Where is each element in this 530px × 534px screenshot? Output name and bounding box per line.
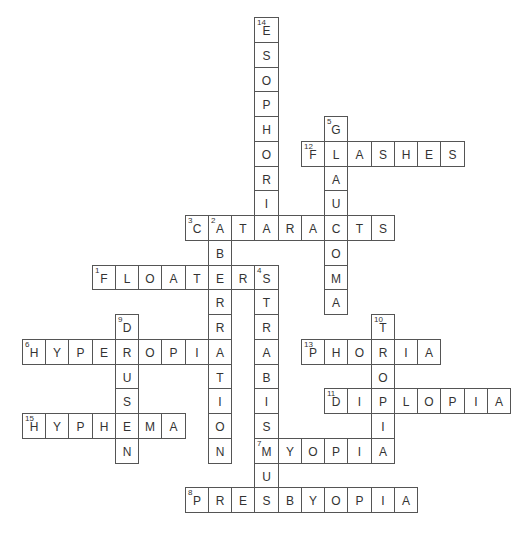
crossword-cell[interactable]: 6H — [22, 339, 46, 365]
crossword-cell[interactable]: C — [324, 215, 348, 241]
crossword-cell[interactable]: P — [161, 339, 186, 365]
crossword-cell[interactable]: 12F — [301, 141, 325, 167]
crossword-cell[interactable]: A — [371, 438, 395, 464]
crossword-cell[interactable]: O — [417, 388, 441, 414]
crossword-cell[interactable]: R — [278, 215, 302, 241]
crossword-cell[interactable]: A — [254, 215, 279, 241]
crossword-cell[interactable]: 5G — [324, 116, 348, 142]
crossword-cell[interactable]: R — [254, 314, 279, 340]
crossword-cell[interactable]: E — [92, 339, 116, 365]
crossword-cell[interactable]: O — [208, 413, 232, 439]
crossword-cell[interactable]: R — [254, 166, 279, 191]
crossword-cell[interactable]: T — [254, 289, 279, 315]
crossword-cell[interactable]: P — [347, 487, 372, 513]
crossword-cell[interactable]: 1F — [92, 265, 116, 290]
crossword-cell[interactable]: I — [394, 339, 418, 365]
crossword-cell[interactable]: H — [394, 141, 418, 167]
crossword-cell[interactable]: 7M — [254, 438, 279, 464]
crossword-cell[interactable]: A — [301, 215, 325, 241]
crossword-cell[interactable]: A — [324, 289, 348, 315]
crossword-cell[interactable]: 11D — [324, 388, 348, 414]
crossword-cell[interactable]: E — [115, 413, 139, 439]
crossword-cell[interactable]: O — [324, 240, 348, 266]
crossword-cell[interactable]: I — [254, 388, 279, 414]
crossword-cell[interactable]: E — [231, 487, 255, 513]
crossword-cell[interactable]: O — [301, 438, 325, 464]
crossword-cell[interactable]: S — [371, 215, 395, 241]
crossword-cell[interactable]: P — [371, 388, 395, 414]
crossword-cell[interactable]: A — [161, 265, 186, 290]
crossword-cell[interactable]: A — [394, 487, 418, 513]
crossword-cell[interactable]: P — [254, 91, 279, 117]
crossword-cell[interactable]: Y — [301, 487, 325, 513]
crossword-cell[interactable]: O — [138, 265, 162, 290]
crossword-cell[interactable]: R — [208, 314, 232, 340]
crossword-cell[interactable]: 13P — [301, 339, 325, 365]
crossword-cell[interactable]: 2A — [208, 215, 232, 241]
crossword-cell[interactable]: N — [208, 438, 232, 464]
crossword-cell[interactable]: B — [278, 487, 302, 513]
crossword-cell[interactable]: O — [254, 67, 279, 92]
crossword-cell[interactable]: A — [161, 413, 186, 439]
crossword-cell[interactable]: U — [324, 190, 348, 216]
crossword-cell[interactable]: A — [487, 388, 511, 414]
crossword-cell[interactable]: Y — [278, 438, 302, 464]
crossword-cell[interactable]: T — [185, 265, 209, 290]
crossword-cell[interactable]: R — [208, 487, 232, 513]
crossword-cell[interactable]: R — [115, 339, 139, 365]
crossword-cell[interactable]: R — [231, 265, 255, 290]
crossword-cell[interactable]: M — [138, 413, 162, 439]
crossword-cell[interactable]: T — [347, 215, 372, 241]
crossword-cell[interactable]: S — [115, 388, 139, 414]
crossword-cell[interactable]: I — [208, 388, 232, 414]
crossword-cell[interactable]: P — [324, 438, 348, 464]
crossword-cell[interactable]: N — [115, 438, 139, 464]
crossword-cell[interactable]: 14E — [254, 17, 279, 43]
crossword-cell[interactable]: A — [208, 339, 232, 365]
crossword-cell[interactable]: S — [371, 141, 395, 167]
crossword-cell[interactable]: U — [254, 463, 279, 488]
crossword-cell[interactable]: 15H — [22, 413, 46, 439]
crossword-cell[interactable]: I — [347, 388, 372, 414]
crossword-cell[interactable]: B — [208, 240, 232, 266]
crossword-cell[interactable]: L — [324, 141, 348, 167]
crossword-cell[interactable]: P — [440, 388, 465, 414]
crossword-cell[interactable]: R — [371, 339, 395, 365]
crossword-cell[interactable]: A — [254, 339, 279, 365]
crossword-cell[interactable]: Y — [45, 413, 69, 439]
crossword-cell[interactable]: H — [324, 339, 348, 365]
crossword-cell[interactable]: H — [92, 413, 116, 439]
crossword-cell[interactable]: P — [68, 413, 93, 439]
crossword-cell[interactable]: E — [417, 141, 441, 167]
crossword-cell[interactable]: 9D — [115, 314, 139, 340]
crossword-cell[interactable]: P — [68, 339, 93, 365]
crossword-cell[interactable]: I — [347, 438, 372, 464]
crossword-cell[interactable]: A — [417, 339, 441, 365]
crossword-cell[interactable]: Y — [45, 339, 69, 365]
crossword-cell[interactable]: H — [254, 116, 279, 142]
crossword-cell[interactable]: T — [208, 364, 232, 389]
crossword-cell[interactable]: I — [254, 190, 279, 216]
crossword-cell[interactable]: 8P — [185, 487, 209, 513]
crossword-cell[interactable]: I — [185, 339, 209, 365]
crossword-cell[interactable]: R — [208, 289, 232, 315]
crossword-cell[interactable]: M — [324, 265, 348, 290]
crossword-cell[interactable]: S — [254, 413, 279, 439]
crossword-cell[interactable]: O — [347, 339, 372, 365]
crossword-cell[interactable]: A — [347, 141, 372, 167]
crossword-cell[interactable]: U — [115, 364, 139, 389]
crossword-cell[interactable]: L — [394, 388, 418, 414]
crossword-cell[interactable]: O — [254, 141, 279, 167]
crossword-cell[interactable]: S — [254, 42, 279, 68]
crossword-cell[interactable]: O — [324, 487, 348, 513]
crossword-cell[interactable]: A — [324, 166, 348, 191]
crossword-cell[interactable]: O — [371, 364, 395, 389]
crossword-cell[interactable]: B — [254, 364, 279, 389]
crossword-cell[interactable]: O — [138, 339, 162, 365]
crossword-cell[interactable]: 3C — [185, 215, 209, 241]
crossword-cell[interactable]: 10T — [371, 314, 395, 340]
crossword-cell[interactable]: I — [371, 487, 395, 513]
crossword-cell[interactable]: L — [115, 265, 139, 290]
crossword-cell[interactable]: S — [254, 487, 279, 513]
crossword-cell[interactable]: E — [208, 265, 232, 290]
